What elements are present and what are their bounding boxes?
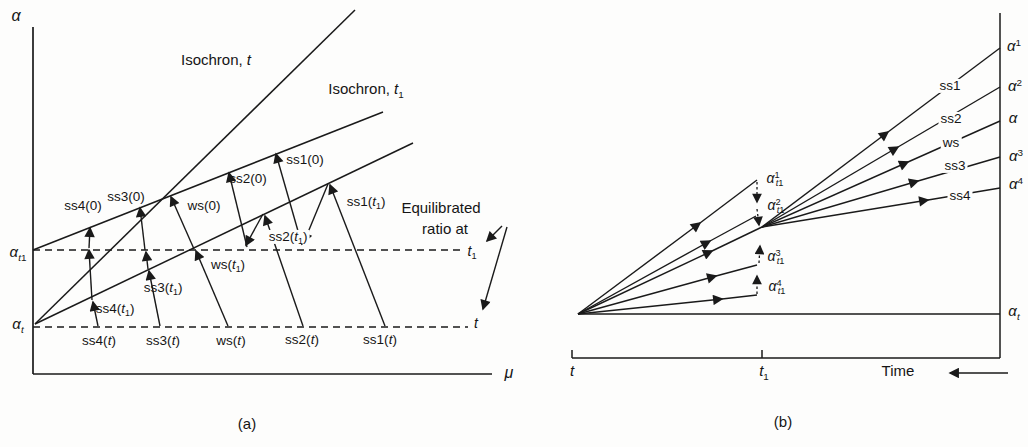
alpha4-t1-label: α4t1 (769, 279, 786, 294)
alpha-plain-label: α (1009, 110, 1018, 126)
time-axis-label: Time (882, 363, 915, 379)
alpha1-label: α1 (1007, 38, 1021, 54)
alpha2-t1-label: α2t1 (768, 198, 785, 213)
alpha3-label: α3 (1009, 148, 1023, 164)
caption-b: (b) (774, 414, 792, 430)
alpha3-t1-label: α3t1 (768, 249, 785, 264)
alpha2-label: α2 (1008, 78, 1022, 94)
ss1-line-label: ss1 (937, 79, 962, 93)
ss4-line-label: ss4 (947, 189, 972, 203)
ss2-line-label: ss2 (938, 112, 963, 126)
isochron-figure: αμIsochron, tIsochron, t1αt1αtss4(0)ss3(… (0, 0, 1028, 447)
t1-tick-label: t1 (759, 363, 769, 379)
alpha1-t1-label: α1t1 (767, 171, 784, 186)
ws-line-label: ws (941, 136, 962, 150)
alpha-t-right-label: αt (1008, 303, 1019, 319)
ss3-line-label: ss3 (942, 159, 967, 173)
t-tick-label: t (570, 363, 574, 379)
alpha4-label: α4 (1009, 176, 1023, 192)
panel-b-labels: α1α2αα3α4ss1ss2wsss3ss4α1t1α2t1α3t1α4t1α… (0, 0, 1028, 447)
